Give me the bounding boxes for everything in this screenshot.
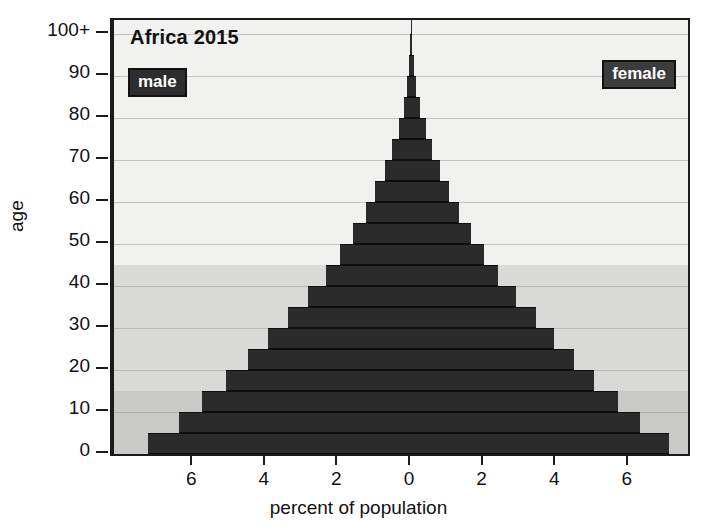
bar-male-25-29: [268, 328, 411, 349]
bar-male-30-34: [288, 307, 411, 328]
bar-female-90-94: [411, 55, 414, 76]
y-tick-mark: [96, 73, 108, 75]
bar-female-65-69: [411, 160, 440, 181]
bar-male-70-74: [392, 139, 411, 160]
y-tick-label: 100+: [47, 19, 90, 41]
bar-male-15-19: [226, 370, 411, 391]
zero-axis-line: [112, 20, 114, 454]
bar-female-40-44: [411, 265, 498, 286]
x-tick-label: 4: [244, 468, 284, 490]
y-tick-label: 20: [69, 355, 90, 377]
bar-male-45-49: [340, 244, 411, 265]
population-pyramid-figure: age 0102030405060708090100+ Africa 2015 …: [0, 0, 717, 531]
y-tick-mark: [96, 283, 108, 285]
bar-female-30-34: [411, 307, 536, 328]
x-tick-label: 2: [316, 468, 356, 490]
y-tick-mark: [96, 451, 108, 453]
legend-female-badge: female: [602, 60, 676, 89]
x-tick-label: 4: [534, 468, 574, 490]
bar-male-35-39: [308, 286, 411, 307]
bar-male-75-79: [399, 118, 411, 139]
y-tick-label: 70: [69, 145, 90, 167]
bar-female-15-19: [411, 370, 594, 391]
x-tick-mark: [481, 454, 483, 465]
y-tick-mark: [96, 367, 108, 369]
bar-male-80-84: [404, 97, 411, 118]
x-tick-mark: [408, 454, 410, 465]
y-tick-mark: [96, 157, 108, 159]
x-tick-label: 2: [462, 468, 502, 490]
bar-female-70-74: [411, 139, 432, 160]
y-tick-label: 80: [69, 103, 90, 125]
y-tick-mark: [96, 409, 108, 411]
x-tick-label: 6: [607, 468, 647, 490]
bar-female-80-84: [411, 97, 420, 118]
bar-female-55-59: [411, 202, 459, 223]
chart-title: Africa 2015: [130, 26, 239, 49]
bar-female-85-89: [411, 76, 416, 97]
bar-male-50-54: [353, 223, 411, 244]
bar-male-65-69: [385, 160, 411, 181]
bar-male-60-64: [375, 181, 411, 202]
bar-female-5-9: [411, 412, 640, 433]
y-tick-label: 0: [79, 439, 90, 461]
bar-female-10-14: [411, 391, 618, 412]
x-tick-mark: [190, 454, 192, 465]
x-tick-label: 0: [389, 468, 429, 490]
x-tick-mark: [553, 454, 555, 465]
y-axis-label: age: [6, 200, 28, 232]
y-tick-mark: [96, 325, 108, 327]
y-tick-mark: [96, 31, 108, 33]
bar-male-40-44: [326, 265, 411, 286]
y-tick-label: 40: [69, 271, 90, 293]
bar-female-45-49: [411, 244, 484, 265]
plot-area: Africa 2015 male female: [110, 18, 690, 456]
bar-female-50-54: [411, 223, 471, 244]
x-tick-label: 6: [171, 468, 211, 490]
x-tick-mark: [335, 454, 337, 465]
bar-female-95-99: [411, 34, 412, 55]
y-tick-label: 50: [69, 229, 90, 251]
bar-male-5-9: [179, 412, 411, 433]
x-tick-mark: [263, 454, 265, 465]
bar-female-25-29: [411, 328, 554, 349]
bar-female-0-4: [411, 433, 669, 454]
bar-female-35-39: [411, 286, 516, 307]
y-tick-label: 60: [69, 187, 90, 209]
bar-female-75-79: [411, 118, 426, 139]
bar-female-60-64: [411, 181, 449, 202]
bar-female-20-24: [411, 349, 574, 370]
legend-male-badge: male: [128, 68, 187, 97]
y-tick-label: 30: [69, 313, 90, 335]
y-tick-mark: [96, 241, 108, 243]
bar-male-20-24: [248, 349, 411, 370]
x-axis-label: percent of population: [0, 497, 717, 519]
y-tick-mark: [96, 199, 108, 201]
bar-male-0-4: [148, 433, 411, 454]
y-tick-label: 90: [69, 61, 90, 83]
y-tick-mark: [96, 115, 108, 117]
bar-male-55-59: [366, 202, 411, 223]
y-tick-label: 10: [69, 397, 90, 419]
x-tick-mark: [626, 454, 628, 465]
bar-male-10-14: [202, 391, 411, 412]
